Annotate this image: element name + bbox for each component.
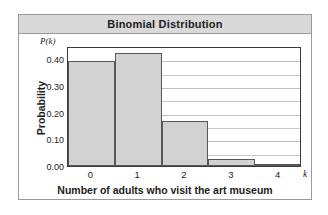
y-axis-symbol-label: P(k) <box>40 36 56 46</box>
chart-card: Binomial Distribution Probability P(k) 0… <box>18 14 312 200</box>
y-axis-tick-labels: 0.000.100.200.300.40 <box>19 47 64 167</box>
screenshot-root: Binomial Distribution Probability P(k) 0… <box>0 0 328 215</box>
y-tick-0.00: 0.00 <box>20 162 64 172</box>
x-tick-1: 1 <box>122 169 152 180</box>
bar-3 <box>208 159 255 166</box>
x-tick-0: 0 <box>75 169 105 180</box>
plot-frame <box>67 47 301 167</box>
y-tick-0.40: 0.40 <box>20 55 64 65</box>
bar-series <box>68 48 300 166</box>
chart-title-bar: Binomial Distribution <box>19 15 311 34</box>
y-tick-0.30: 0.30 <box>20 82 64 92</box>
bar-2 <box>162 121 209 166</box>
x-axis-tick-labels: 01234 <box>67 169 301 183</box>
y-tick-0.10: 0.10 <box>20 135 64 145</box>
x-tick-3: 3 <box>216 169 246 180</box>
chart-title: Binomial Distribution <box>107 18 222 30</box>
bar-4 <box>255 164 300 166</box>
x-tick-2: 2 <box>169 169 199 180</box>
x-axis-label: Number of adults who visit the art museu… <box>19 184 311 196</box>
bar-0 <box>68 61 115 166</box>
bar-1 <box>115 53 162 166</box>
x-axis-symbol-label: k <box>303 169 307 179</box>
x-tick-4: 4 <box>263 169 293 180</box>
y-tick-0.20: 0.20 <box>20 109 64 119</box>
chart-area: Probability P(k) 0.000.100.200.300.40 01… <box>19 34 311 200</box>
